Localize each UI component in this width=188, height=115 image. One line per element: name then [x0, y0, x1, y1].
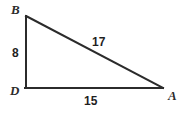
vertex-label-a: A	[168, 89, 177, 102]
side-length-label-da: 15	[84, 95, 97, 107]
side-length-label-bd: 8	[12, 47, 19, 59]
triangle-side-ba	[26, 16, 163, 88]
vertex-label-b: B	[11, 3, 20, 16]
side-length-label-ba: 17	[92, 36, 105, 48]
vertex-label-d: D	[10, 84, 19, 97]
geometry-figure: B D A 8 17 15	[0, 0, 188, 115]
